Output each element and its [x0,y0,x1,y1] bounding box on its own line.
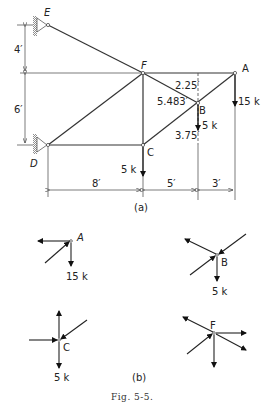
figure-caption: Fig. 5-5. [111,392,153,402]
support-E [33,16,47,36]
label-A: A [242,63,249,74]
joint-A [233,71,236,74]
dim-vertical-upper: 4′ [14,44,23,55]
fbd-C-load: 5 k [54,372,70,383]
fbd-A-label: A [76,232,84,243]
fbd-A-load: 15 k [66,271,88,282]
dim-B-below: 3.75′ [175,130,200,141]
support-D [33,134,47,154]
joint-C [141,143,144,146]
dim-B-above: 2.25′ [175,80,200,91]
label-D: D [30,158,38,169]
dim-horizontal-2: 5′ [167,178,176,189]
load-label-B: 5 k [202,120,218,131]
fbd-C-label: C [63,342,70,353]
fbd-B: B 5 k [185,234,246,297]
member-EF [48,25,143,73]
fbd-A: A 15 k [38,232,88,282]
fbd-C: C 5 k [29,311,87,383]
label-F: F [141,60,147,71]
load-label-C: 5 k [121,164,137,175]
label-E: E [44,7,51,18]
truss-figure: E D F C B A 15 k 5 k 5 k 2.25′ 5.483′ 3.… [0,0,267,407]
fbd-F-label: F [210,320,216,331]
part-a-label: (a) [134,202,148,213]
label-C: C [147,147,154,158]
joint-E [46,23,49,26]
dim-FB-length: 5.483′ [157,96,189,107]
dim-vertical-lower: 6′ [14,104,23,115]
joint-D [46,143,49,146]
dim-horizontal-3: 3′ [212,178,221,189]
part-b-label: (b) [132,372,146,383]
joint-F [141,71,144,74]
fbd-B-label: B [221,257,228,268]
load-label-A: 15 k [238,96,260,107]
label-B: B [199,105,206,116]
fbd-B-load: 5 k [212,286,228,297]
dim-horizontal-1: 8′ [92,178,101,189]
truss-diagram: E D F C B A 15 k 5 k 5 k 2.25′ 5.483′ 3.… [14,7,260,213]
fbd-F: F [183,317,246,367]
member-DF [48,73,143,145]
